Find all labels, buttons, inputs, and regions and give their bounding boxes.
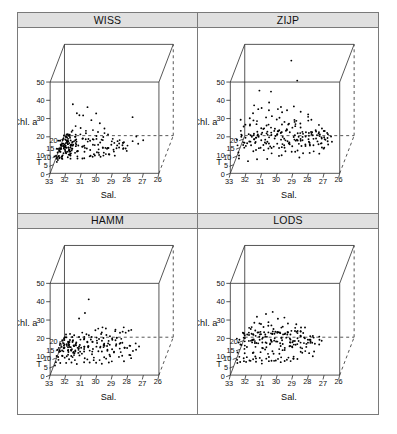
- data-point: [63, 346, 65, 348]
- x-tick-label: 31: [256, 379, 264, 388]
- data-point: [256, 120, 258, 122]
- data-point: [125, 331, 127, 333]
- data-point: [280, 131, 282, 133]
- data-point: [279, 342, 281, 344]
- data-point: [309, 341, 311, 343]
- data-point: [85, 130, 87, 132]
- data-point: [72, 339, 74, 341]
- data-point: [297, 140, 299, 142]
- data-point: [312, 134, 314, 136]
- data-point: [308, 135, 310, 137]
- data-point: [238, 341, 240, 343]
- data-point: [86, 148, 88, 150]
- data-point: [53, 155, 55, 157]
- data-point: [270, 339, 272, 341]
- data-point: [313, 336, 315, 338]
- panel-wiss[interactable]: WISS 3332313029282726Sal.05101520T102030…: [18, 13, 198, 214]
- data-point: [253, 321, 255, 323]
- data-point: [271, 359, 273, 361]
- data-point: [69, 332, 71, 334]
- data-point: [284, 349, 286, 351]
- data-point: [81, 352, 83, 354]
- data-point: [311, 341, 313, 343]
- data-point: [303, 342, 305, 344]
- data-point: [250, 134, 252, 136]
- data-point: [274, 138, 276, 140]
- data-point: [77, 150, 79, 152]
- data-point: [253, 351, 255, 353]
- data-point: [122, 330, 124, 332]
- data-point: [84, 151, 86, 153]
- x-axis-title: Sal.: [281, 190, 297, 200]
- panel-lods[interactable]: LODS 3332313029282726Sal.05101520T102030…: [198, 214, 378, 415]
- data-point: [115, 344, 117, 346]
- data-point: [277, 317, 279, 319]
- data-point: [63, 342, 65, 344]
- x-tick-label: 33: [225, 177, 233, 186]
- data-point: [75, 145, 77, 147]
- z-tick-label: 20: [50, 337, 58, 346]
- data-point: [239, 361, 241, 363]
- data-point: [100, 156, 102, 158]
- data-point: [103, 356, 105, 358]
- z-tick-label: 5: [224, 363, 228, 372]
- data-point: [304, 350, 306, 352]
- data-point: [267, 324, 269, 326]
- data-point: [300, 335, 302, 337]
- data-point: [61, 354, 63, 356]
- x-tick-label: 29: [288, 379, 296, 388]
- data-point: [109, 343, 111, 345]
- data-point: [243, 360, 245, 362]
- data-point: [258, 90, 260, 92]
- data-point: [83, 337, 85, 339]
- z-tick-label: 0: [41, 371, 45, 380]
- panel-strip-zijp: ZIJP: [198, 13, 378, 28]
- data-point: [268, 143, 270, 145]
- data-point: [309, 152, 311, 154]
- data-point: [255, 357, 257, 359]
- data-point: [61, 345, 63, 347]
- data-point: [236, 361, 238, 363]
- data-point: [71, 348, 73, 350]
- data-point: [263, 331, 265, 333]
- data-point: [296, 80, 298, 82]
- data-point: [65, 147, 67, 149]
- data-point: [135, 136, 137, 138]
- data-point: [284, 150, 286, 152]
- data-point: [300, 127, 302, 129]
- panel-zijp[interactable]: ZIJP 3332313029282726Sal.05101520T102030…: [198, 13, 378, 214]
- data-point: [318, 153, 320, 155]
- panel-hamm[interactable]: HAMM 3332313029282726Sal.05101520T102030…: [18, 214, 198, 415]
- data-point: [262, 128, 264, 130]
- data-point: [93, 359, 95, 361]
- z-tick-label: 0: [221, 371, 225, 380]
- data-point: [84, 312, 86, 314]
- data-point: [313, 350, 315, 352]
- data-point: [102, 147, 104, 149]
- x-tick-label: 26: [334, 376, 342, 385]
- data-point: [268, 360, 270, 362]
- data-point: [281, 154, 283, 156]
- z-tick-label: 5: [44, 363, 48, 372]
- data-point: [99, 359, 101, 361]
- data-point: [93, 356, 95, 358]
- plot-area-hamm: 3332313029282726Sal.05101520T1020304050C…: [18, 229, 197, 415]
- data-point: [66, 355, 68, 357]
- scatter-3d-zijp: 3332313029282726Sal.05101520T1020304050C…: [198, 28, 378, 213]
- data-point: [281, 124, 283, 126]
- data-point: [278, 147, 280, 149]
- data-point: [135, 348, 137, 350]
- data-point: [61, 158, 63, 160]
- data-point: [128, 329, 130, 331]
- data-point: [61, 349, 63, 351]
- data-point: [294, 121, 296, 123]
- data-point: [62, 139, 64, 141]
- data-point: [56, 158, 58, 160]
- data-point: [266, 158, 268, 160]
- data-point: [321, 128, 323, 130]
- data-point: [80, 338, 82, 340]
- data-point: [125, 148, 127, 150]
- data-point: [248, 339, 250, 341]
- data-point: [291, 151, 293, 153]
- data-point: [246, 356, 248, 358]
